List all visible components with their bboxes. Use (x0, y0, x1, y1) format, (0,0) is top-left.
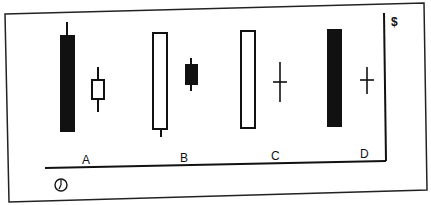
group-label-a: A (82, 153, 90, 167)
y-axis-unit-label: $ (391, 15, 398, 29)
long-black-candle (60, 35, 75, 132)
small-black-candle (185, 64, 198, 85)
long-white-candle (241, 31, 255, 128)
group-label-b: B (180, 151, 188, 165)
candlestick-diagram: $ A B C D (0, 0, 431, 205)
long-white-candle (153, 33, 167, 129)
group-label-d: D (360, 147, 369, 161)
group-label-c: C (271, 149, 280, 163)
small-white-candle (92, 80, 104, 99)
clock-icon (55, 179, 67, 191)
long-black-candle (327, 29, 342, 127)
